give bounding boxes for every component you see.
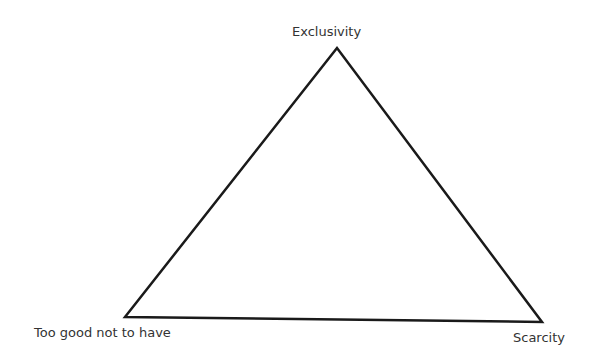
vertex-label-exclusivity: Exclusivity (292, 24, 361, 39)
triangle-shape (125, 48, 542, 322)
triangle-diagram (0, 0, 612, 362)
vertex-label-scarcity: Scarcity (513, 330, 565, 345)
vertex-label-too-good-not-to-have: Too good not to have (34, 325, 171, 340)
